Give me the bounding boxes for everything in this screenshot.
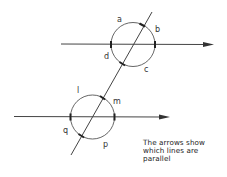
angle-label-m: m — [113, 97, 121, 106]
angle-label-p: p — [103, 140, 108, 149]
angle-label-l: l — [77, 86, 79, 95]
angle-label-q: q — [63, 126, 68, 135]
note-line-3: parallel — [143, 155, 205, 163]
parallel-note: The arrows show which lines are parallel — [143, 139, 205, 164]
lower-arrowhead-icon — [159, 115, 170, 120]
angle-label-c: c — [144, 65, 148, 74]
angle-label-b: b — [155, 25, 160, 34]
transversal-line — [71, 12, 152, 155]
angle-label-d: d — [104, 52, 109, 61]
angle-label-a: a — [117, 15, 122, 24]
upper-parallel-line — [61, 42, 214, 47]
upper-arrowhead-icon — [203, 42, 214, 47]
